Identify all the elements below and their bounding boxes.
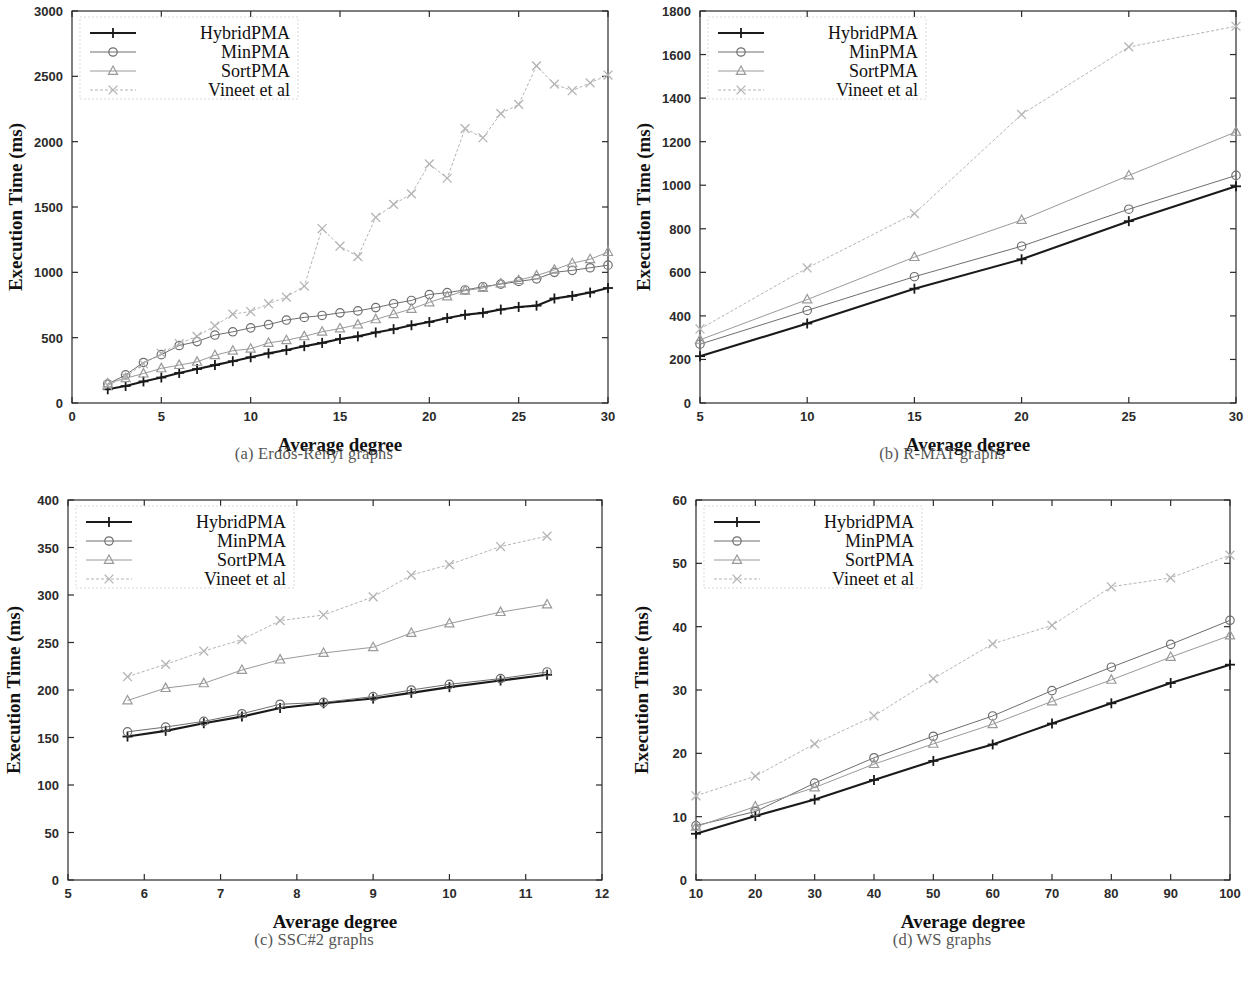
legend: HybridPMAMinPMASortPMAVineet et al [704, 506, 922, 589]
cross-marker [1124, 43, 1133, 52]
x-tick-label: 10 [243, 409, 257, 424]
series-line [696, 665, 1230, 834]
cross-marker [496, 109, 505, 118]
plus-marker [138, 376, 148, 386]
legend-label-1: MinPMA [845, 531, 914, 551]
series-line [696, 620, 1230, 825]
chart-svg-b: 5101520253002004006008001000120014001600… [628, 0, 1256, 460]
cross-marker [514, 100, 523, 109]
legend-label-3: Vineet et al [204, 569, 286, 589]
y-tick-label: 30 [673, 683, 687, 698]
y-axis-title: Execution Time (ms) [3, 606, 25, 774]
plus-marker [1231, 181, 1241, 191]
cross-marker [407, 571, 416, 580]
x-axis-title: Average degree [273, 911, 397, 932]
cross-marker [810, 739, 819, 748]
y-tick-label: 100 [37, 778, 59, 793]
plus-marker [496, 305, 506, 315]
chart-panel-b: 5101520253002004006008001000120014001600… [628, 0, 1256, 490]
legend-label-0: HybridPMA [824, 512, 914, 532]
plus-marker [1166, 678, 1176, 688]
cross-marker [445, 560, 454, 569]
cross-marker [479, 133, 488, 142]
plus-marker [810, 795, 820, 805]
y-tick-label: 1800 [662, 4, 691, 19]
cross-marker [988, 639, 997, 648]
y-tick-label: 200 [37, 683, 59, 698]
cross-marker [211, 322, 220, 331]
series-line [128, 605, 548, 701]
x-tick-label: 7 [217, 886, 224, 901]
plus-marker [532, 301, 542, 311]
cross-marker [123, 672, 132, 681]
y-tick-label: 20 [673, 746, 687, 761]
cross-marker [550, 80, 559, 89]
legend: HybridPMAMinPMASortPMAVineet et al [708, 17, 926, 100]
plus-marker [371, 327, 381, 337]
plus-marker [281, 345, 291, 355]
cross-marker [318, 224, 327, 233]
y-tick-label: 0 [52, 873, 59, 888]
plus-marker [121, 381, 131, 391]
legend-label-3: Vineet et al [836, 80, 918, 100]
x-tick-label: 15 [333, 409, 347, 424]
y-tick-label: 40 [673, 620, 687, 635]
legend-label-3: Vineet et al [208, 80, 290, 100]
legend-label-1: MinPMA [849, 42, 918, 62]
y-tick-label: 150 [37, 731, 59, 746]
plus-marker [246, 352, 256, 362]
series-sortpma [123, 600, 552, 704]
y-tick-label: 1200 [662, 135, 691, 150]
plus-marker [1017, 254, 1027, 264]
chart-panel-d: 1020304050607080901000102030405060Averag… [628, 490, 1256, 981]
series-sortpma [691, 631, 1234, 831]
plus-marker [335, 334, 345, 344]
y-axis-title: Execution Time (ms) [631, 606, 653, 774]
x-tick-label: 20 [748, 886, 762, 901]
plus-marker [928, 756, 938, 766]
x-tick-label: 70 [1045, 886, 1059, 901]
x-tick-label: 25 [511, 409, 525, 424]
y-tick-label: 1400 [662, 91, 691, 106]
cross-marker [246, 307, 255, 316]
cross-marker [1166, 574, 1175, 583]
y-axis-title: Execution Time (ms) [5, 123, 27, 291]
legend: HybridPMAMinPMASortPMAVineet et al [80, 17, 298, 100]
cross-marker [443, 174, 452, 183]
plus-marker [210, 360, 220, 370]
x-tick-label: 30 [1229, 409, 1243, 424]
series-line [700, 186, 1236, 356]
plus-marker [389, 324, 399, 334]
y-tick-label: 350 [37, 541, 59, 556]
legend-label-2: SortPMA [221, 61, 290, 81]
cross-marker [282, 293, 291, 302]
x-tick-label: 60 [985, 886, 999, 901]
plus-marker [549, 293, 559, 303]
cross-marker [929, 674, 938, 683]
legend-label-0: HybridPMA [200, 23, 290, 43]
x-tick-label: 10 [689, 886, 703, 901]
y-tick-label: 3000 [34, 4, 63, 19]
plus-marker [424, 317, 434, 327]
cross-marker [751, 772, 760, 781]
legend-label-3: Vineet et al [832, 569, 914, 589]
x-tick-label: 0 [68, 409, 75, 424]
legend-label-0: HybridPMA [196, 512, 286, 532]
plus-marker [299, 341, 309, 351]
y-tick-label: 1000 [662, 178, 691, 193]
cross-marker [369, 593, 378, 602]
chart-svg-c: 56789101112050100150200250300350400Avera… [0, 490, 628, 945]
legend: HybridPMAMinPMASortPMAVineet et al [76, 506, 294, 589]
cross-marker [193, 332, 202, 341]
legend-label-2: SortPMA [849, 61, 918, 81]
y-tick-label: 1600 [662, 48, 691, 63]
cross-marker [461, 124, 470, 133]
plus-marker [228, 356, 238, 366]
series-minpma [696, 171, 1240, 348]
triangle-marker [542, 600, 551, 608]
legend-label-0: HybridPMA [828, 23, 918, 43]
plus-marker [353, 331, 363, 341]
plus-marker [802, 319, 812, 329]
series-hybridpma [123, 670, 553, 742]
cross-marker [336, 242, 345, 251]
